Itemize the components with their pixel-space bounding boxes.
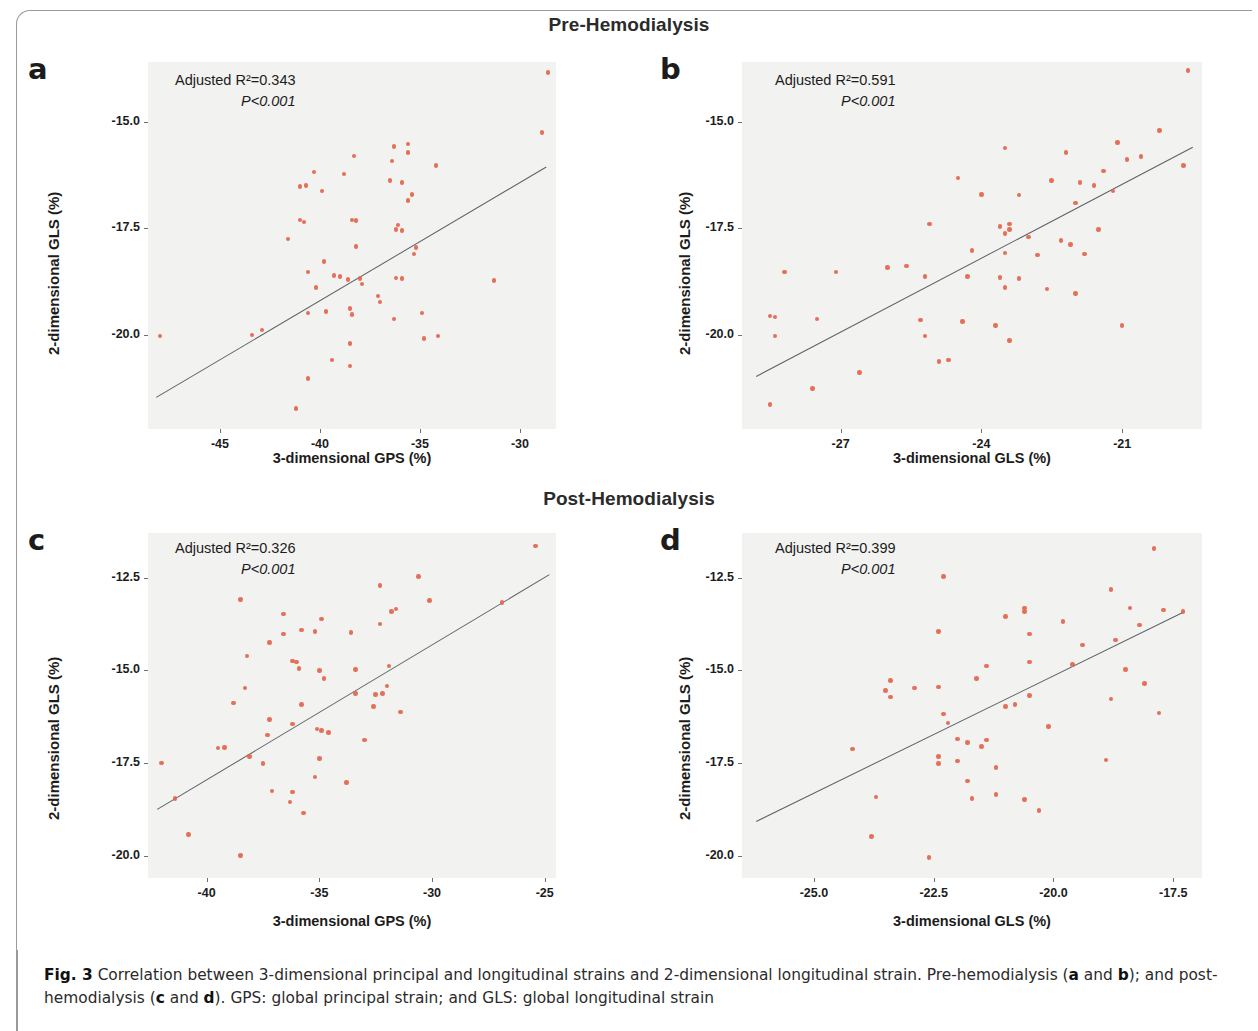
data-point (1157, 711, 1162, 716)
data-point (298, 184, 303, 189)
data-point (1092, 183, 1097, 188)
data-point (546, 70, 551, 75)
y-axis-tick-label: -12.5 (86, 570, 140, 584)
y-axis-tick-mark (738, 122, 742, 123)
plot-area-a (148, 62, 556, 429)
data-point (245, 654, 250, 659)
data-point (936, 754, 941, 759)
data-point (400, 276, 405, 281)
y-axis-tick-mark (738, 335, 742, 336)
data-point (1003, 704, 1008, 709)
data-point (389, 609, 394, 614)
data-point (1007, 227, 1012, 232)
data-point (216, 746, 221, 751)
data-point (250, 333, 255, 338)
data-point (1003, 231, 1008, 236)
data-point (348, 364, 353, 369)
r-squared-label-b: Adjusted R²=0.591 (775, 72, 896, 88)
x-axis-tick-mark (814, 878, 815, 882)
y-axis-tick-mark (738, 670, 742, 671)
x-axis-tick-label: -21 (1092, 437, 1152, 451)
data-point (1104, 758, 1109, 763)
y-axis-tick-mark (738, 856, 742, 857)
data-point (1115, 140, 1120, 145)
data-point (936, 761, 941, 766)
figure-caption: Fig. 3 Correlation between 3-dimensional… (44, 964, 1234, 1010)
data-point (353, 667, 358, 672)
data-point (923, 334, 928, 339)
x-axis-tick-label: -45 (190, 437, 250, 451)
data-point (492, 278, 497, 283)
data-point (1109, 587, 1114, 592)
data-point (970, 248, 975, 253)
data-point (1096, 227, 1101, 232)
data-point (265, 733, 270, 738)
data-point (313, 775, 318, 780)
data-point (994, 765, 999, 770)
data-point (332, 273, 337, 278)
data-point (1070, 662, 1075, 667)
data-point (1017, 276, 1022, 281)
y-axis-tick-mark (144, 122, 148, 123)
data-point (222, 745, 227, 750)
data-point (317, 756, 322, 761)
data-point (965, 274, 970, 279)
data-point (998, 275, 1003, 280)
caption-ref-d: d (204, 989, 215, 1007)
r-squared-label-d: Adjusted R²=0.399 (775, 540, 896, 556)
data-point (299, 628, 304, 633)
data-point (322, 259, 327, 264)
x-axis-tick-label: -35 (390, 437, 450, 451)
x-axis-title-b: 3-dimensional GLS (%) (742, 450, 1202, 466)
data-point (912, 686, 917, 691)
y-axis-tick-mark (144, 578, 148, 579)
plot-area-b (742, 62, 1202, 429)
x-axis-tick-mark (934, 878, 935, 882)
data-point (956, 176, 961, 181)
x-axis-tick-label: -30 (402, 886, 462, 900)
data-point (306, 311, 311, 316)
y-axis-tick-mark (738, 763, 742, 764)
data-point (302, 220, 307, 225)
data-point (317, 668, 322, 673)
data-point (243, 686, 248, 691)
data-point (1120, 323, 1125, 328)
data-point (314, 285, 319, 290)
data-point (261, 761, 266, 766)
data-point (500, 600, 505, 605)
data-point (1022, 797, 1027, 802)
data-point (923, 274, 928, 279)
y-axis-tick-mark (144, 228, 148, 229)
data-point (270, 789, 275, 794)
data-point (965, 779, 970, 784)
data-point (1017, 193, 1022, 198)
data-point (1013, 702, 1018, 707)
data-point (371, 704, 376, 709)
panel-letter-b: b (660, 52, 681, 86)
x-axis-tick-label: -25.0 (784, 886, 844, 900)
data-point (540, 130, 545, 135)
data-point (322, 676, 327, 681)
data-point (946, 721, 951, 726)
data-point (904, 264, 909, 269)
data-point (1003, 146, 1008, 151)
plot-area-d (742, 533, 1202, 878)
data-point (1022, 609, 1027, 614)
data-point (970, 796, 975, 801)
data-point (1161, 608, 1166, 613)
data-point (768, 314, 773, 319)
x-axis-title-c: 3-dimensional GPS (%) (148, 913, 556, 929)
data-point (387, 664, 392, 669)
data-point (288, 800, 293, 805)
y-axis-tick-mark (144, 856, 148, 857)
data-point (1027, 693, 1032, 698)
data-point (324, 309, 329, 314)
panel-letter-d: d (660, 523, 681, 557)
data-point (422, 336, 427, 341)
data-point (378, 300, 383, 305)
caption-and-2: and (165, 989, 204, 1007)
data-point (319, 617, 324, 622)
data-point (378, 583, 383, 588)
data-point (353, 691, 358, 696)
data-point (1027, 660, 1032, 665)
